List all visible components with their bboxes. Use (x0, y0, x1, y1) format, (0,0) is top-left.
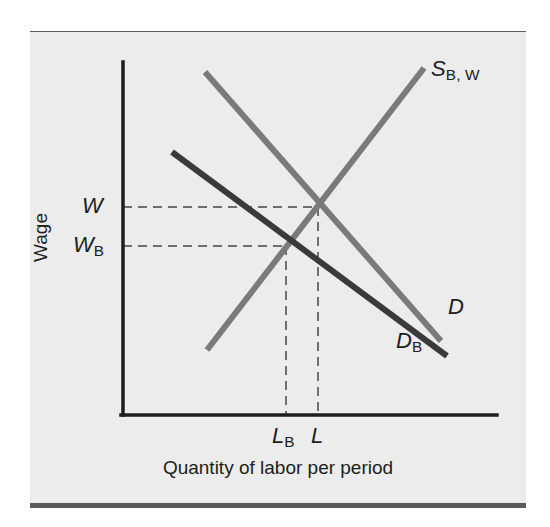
y-tick-label-w: W (82, 195, 103, 217)
demand-curve-d (205, 72, 441, 341)
economics-figure: SB, W D DB W WB LB L Wage Quantity of la… (0, 0, 550, 527)
demand-b-curve-label: DB (396, 330, 422, 352)
supply-curve-label: SB, W (431, 58, 480, 80)
demand-curve-db (172, 152, 447, 356)
x-axis-title: Quantity of labor per period (122, 458, 434, 477)
y-tick-label-wb: WB (73, 234, 104, 256)
demand-curve-label: D (448, 296, 464, 318)
x-tick-label-lb: LB (272, 425, 295, 447)
x-tick-label-l: L (311, 425, 323, 447)
y-axis-title: Wage (31, 183, 50, 293)
plot-axes (121, 62, 497, 415)
